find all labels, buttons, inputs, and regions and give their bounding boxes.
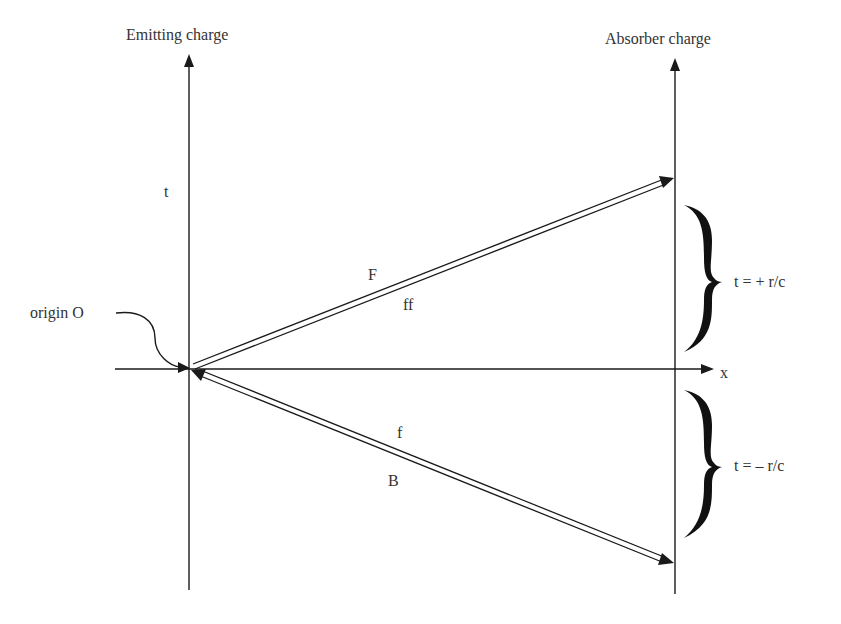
absorber-axis-arrowhead-icon [670, 58, 680, 71]
backward-wave-label-f: f [397, 425, 402, 441]
advanced-arrowhead-at-absorber-icon [658, 553, 674, 565]
x-axis-label: x [720, 365, 728, 381]
origin-arrowhead-icon [178, 362, 190, 373]
t-axis-arrowhead-icon [184, 54, 194, 67]
absorber-charge-axis [670, 58, 680, 594]
lower-brace-label: t = – r/c [734, 458, 784, 474]
advanced-arrowhead-at-origin-icon [191, 369, 206, 381]
advanced-wave-line [191, 369, 674, 565]
emitting-charge-label: Emitting charge [126, 27, 228, 43]
upper-brace-label: t = + r/c [734, 274, 785, 290]
lower-brace-icon [684, 390, 722, 538]
origin-label: origin O [30, 305, 84, 321]
forward-wave-label-ff: ff [403, 297, 413, 313]
absorber-charge-label: Absorber charge [605, 31, 711, 47]
emitting-charge-axis [184, 54, 194, 590]
origin-pointer [116, 312, 190, 373]
upper-brace-icon [684, 205, 722, 352]
x-axis-arrowhead-icon [701, 364, 714, 374]
backward-wave-label-b: B [388, 473, 399, 489]
retarded-wave-line [193, 176, 674, 369]
t-axis-label: t [164, 184, 168, 200]
retarded-advanced-wave-diagram [0, 0, 841, 624]
forward-wave-label-f-upper: F [368, 267, 377, 283]
